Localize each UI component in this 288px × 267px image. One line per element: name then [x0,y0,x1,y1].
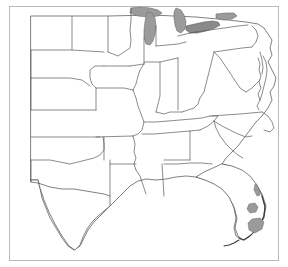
map-canvas [0,0,288,267]
map-figure [0,0,288,267]
lake-okeechobee-water [247,203,258,213]
